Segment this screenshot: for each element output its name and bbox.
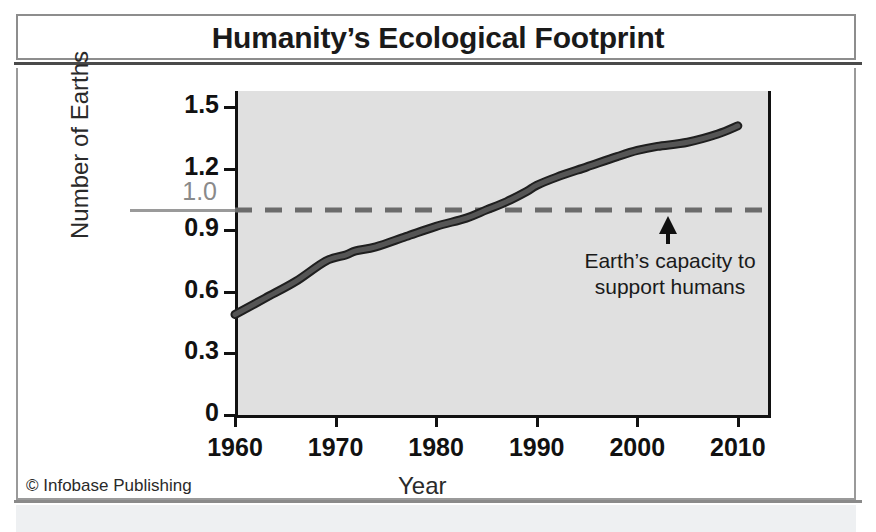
y-tick-mark bbox=[224, 229, 235, 232]
x-tick-mark bbox=[636, 415, 639, 427]
title-divider bbox=[14, 62, 862, 65]
footer-band bbox=[16, 505, 856, 532]
bottom-divider bbox=[14, 500, 862, 503]
x-tick-label: 2010 bbox=[673, 433, 803, 462]
annotation-line-1: Earth’s capacity to bbox=[558, 248, 782, 274]
copyright-notice: © Infobase Publishing bbox=[26, 476, 192, 496]
y-tick-mark bbox=[224, 291, 235, 294]
x-tick-mark bbox=[737, 415, 740, 427]
y-tick-mark bbox=[224, 106, 235, 109]
y-tick-label: 1.5 bbox=[39, 90, 219, 119]
x-tick-mark bbox=[435, 415, 438, 427]
x-axis-title: Year bbox=[398, 472, 447, 500]
page-title: Humanity’s Ecological Footprint bbox=[18, 16, 858, 62]
annotation-text: Earth’s capacity to support humans bbox=[558, 248, 782, 300]
x-tick-mark bbox=[335, 415, 338, 427]
threshold-value-label: 1.0 bbox=[39, 177, 217, 206]
threshold-axis-stub bbox=[130, 209, 235, 212]
y-tick-label: 0.6 bbox=[39, 275, 219, 304]
y-tick-mark bbox=[224, 168, 235, 171]
y-tick-label: 0.9 bbox=[39, 213, 219, 242]
annotation-line-2: support humans bbox=[558, 274, 782, 300]
y-tick-mark bbox=[224, 352, 235, 355]
chart-figure: Humanity’s Ecological Footprint Number o… bbox=[0, 0, 876, 532]
x-tick-mark bbox=[234, 415, 237, 427]
title-box: Humanity’s Ecological Footprint bbox=[16, 14, 856, 60]
y-tick-label: 0 bbox=[39, 398, 219, 427]
y-tick-label: 0.3 bbox=[39, 336, 219, 365]
x-tick-mark bbox=[536, 415, 539, 427]
